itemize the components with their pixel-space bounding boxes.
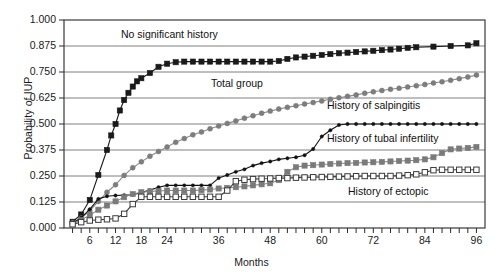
data-point-marker: [276, 107, 281, 112]
data-point-marker: [225, 121, 230, 126]
data-point-marker: [122, 195, 127, 200]
data-point-marker: [414, 45, 419, 50]
data-point-marker: [156, 194, 161, 199]
data-point-marker: [405, 84, 410, 89]
data-point-marker: [328, 52, 333, 57]
data-point-marker: [216, 194, 221, 199]
data-point-marker: [448, 43, 453, 48]
data-point-marker: [200, 184, 203, 187]
data-point-marker: [431, 44, 436, 49]
data-point-marker: [285, 169, 290, 174]
data-point-marker: [259, 176, 264, 181]
data-point-marker: [87, 213, 92, 218]
data-point-marker: [423, 122, 426, 125]
data-point-marker: [354, 160, 359, 165]
series-label: Total group: [211, 77, 263, 89]
x-axis-tick-label: 24: [150, 234, 184, 246]
data-point-marker: [147, 189, 152, 194]
y-axis-tick-label: 0.875: [4, 39, 56, 51]
x-axis-tick-label: 72: [356, 234, 390, 246]
data-point-marker: [268, 109, 273, 114]
data-point-marker: [268, 176, 273, 181]
data-point-marker: [139, 159, 144, 164]
data-point-marker: [250, 183, 255, 188]
data-point-marker: [372, 122, 375, 125]
data-point-marker: [268, 59, 273, 64]
data-point-marker: [130, 165, 135, 170]
data-point-marker: [173, 194, 178, 199]
data-point-marker: [251, 113, 256, 118]
data-point-marker: [225, 59, 230, 64]
data-point-marker: [422, 170, 427, 175]
data-point-marker: [448, 147, 453, 152]
data-point-marker: [104, 147, 109, 152]
data-point-marker: [396, 173, 401, 178]
data-point-marker: [371, 173, 376, 178]
data-point-marker: [414, 83, 419, 88]
x-axis-tick-label: 84: [408, 234, 442, 246]
data-point-marker: [328, 161, 333, 166]
data-point-marker: [354, 49, 359, 54]
data-point-marker: [414, 172, 419, 177]
data-point-marker: [431, 81, 436, 86]
data-point-marker: [208, 126, 213, 131]
data-point-marker: [457, 167, 462, 172]
data-point-marker: [233, 118, 238, 123]
data-point-marker: [362, 173, 367, 178]
data-point-marker: [388, 173, 393, 178]
data-point-marker: [362, 49, 367, 54]
data-point-marker: [448, 78, 453, 83]
data-point-marker: [216, 186, 221, 191]
data-point-marker: [216, 59, 221, 64]
data-point-marker: [302, 102, 307, 107]
x-axis-tick-label: 60: [305, 234, 339, 246]
data-point-marker: [147, 154, 152, 159]
data-point-marker: [173, 60, 178, 65]
data-point-marker: [362, 91, 367, 96]
data-point-marker: [310, 175, 315, 180]
data-point-marker: [259, 182, 264, 187]
data-point-marker: [251, 164, 254, 167]
data-point-marker: [225, 188, 230, 193]
data-point-marker: [379, 48, 384, 53]
data-point-marker: [259, 111, 264, 116]
data-point-marker: [190, 194, 195, 199]
data-point-marker: [70, 222, 75, 227]
data-point-marker: [474, 41, 479, 46]
series-label: History of tubal infertility: [327, 132, 438, 144]
data-point-marker: [346, 122, 349, 125]
data-point-marker: [233, 179, 238, 184]
y-axis-tick-label: 0.750: [4, 65, 56, 77]
data-point-marker: [250, 176, 255, 181]
data-point-marker: [465, 167, 470, 172]
data-point-marker: [260, 161, 263, 164]
data-point-marker: [362, 160, 367, 165]
data-point-marker: [130, 201, 135, 206]
data-point-marker: [448, 167, 453, 172]
data-point-marker: [96, 172, 101, 177]
y-axis-tick-label: 1.000: [4, 13, 56, 25]
data-point-marker: [440, 79, 445, 84]
data-point-marker: [345, 174, 350, 179]
series-line: [73, 170, 477, 224]
data-point-marker: [286, 157, 289, 160]
x-axis-tick-label: 36: [202, 234, 236, 246]
data-point-marker: [226, 173, 229, 176]
data-point-marker: [276, 175, 281, 180]
data-point-marker: [354, 122, 357, 125]
series-label: History of ectopic: [348, 185, 429, 197]
data-point-marker: [458, 122, 461, 125]
data-point-marker: [139, 194, 144, 199]
data-point-marker: [182, 59, 187, 64]
data-point-marker: [87, 197, 92, 202]
data-point-marker: [105, 194, 108, 197]
data-point-marker: [302, 163, 307, 168]
data-point-marker: [113, 199, 118, 204]
data-point-marker: [457, 146, 462, 151]
y-axis-tick-label: 0.500: [4, 117, 56, 129]
data-point-marker: [371, 89, 376, 94]
data-point-marker: [336, 161, 341, 166]
data-point-marker: [285, 56, 290, 61]
data-point-marker: [379, 159, 384, 164]
data-point-marker: [165, 188, 170, 193]
